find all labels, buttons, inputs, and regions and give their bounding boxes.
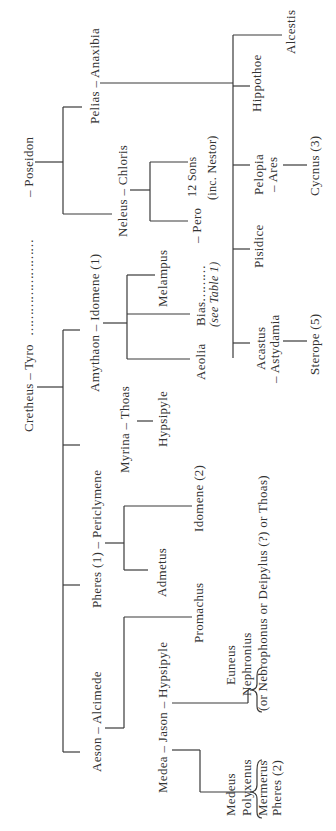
node-astydamia: – Astydamia [268,314,281,383]
node-mermerus: Mermerus [256,760,269,816]
dotted-link-tyro-poseidon: …………………… [22,240,35,336]
dotted-link-bias-pero: ……… [194,266,207,302]
node-euneus: Euneus [224,645,237,685]
node-idomene-2: Idomene (2) [192,465,205,532]
node-acastus: Acastus [254,327,267,370]
node-pisidice: Pisidice [252,224,265,268]
node-medea-jason-hypsipyle: Medea – Jason – Hypsipyle [156,642,169,793]
node-inc-nestor: (inc. Nestor) [206,135,219,200]
node-promachus: Promachus [192,583,205,643]
node-medeus: Medeus [224,773,237,816]
node-pero: – Pero [190,208,203,243]
node-alcestis: Alcestis [284,10,297,54]
node-melampus: Melampus [156,250,169,307]
node-polyxenus: Polyxenus [240,759,253,816]
node-ares: – Ares [266,157,279,192]
node-cretheus-tyro: Cretheus – Tyro [22,344,35,432]
node-sterope-5: Sterope (5) [308,314,321,375]
node-aeolia: Aeolia [194,344,207,380]
node-twelve-sons: 12 Sons [186,157,199,197]
node-nephronius-alternates: (or Nebrophonus or Deipylus (?) or Thoas… [256,475,269,711]
node-pelopia: Pelopia [252,154,265,195]
node-amythaon-idomene: Amythaon – Idomene (1) [88,254,101,392]
node-neleus-chloris: Neleus – Chloris [116,145,129,237]
node-pheres-2: Pheres (2) [270,760,283,816]
node-hypsipyle-daughter: Hypsipyle [156,391,169,447]
node-pheres-periclymene: Pheres (1) – Periclymene [90,470,103,608]
node-nephronius: Nephronius [240,632,253,696]
node-poseidon: – Poseidon [22,137,35,197]
node-pelias-anaxibia: Pelias – Anaxibia [88,28,101,124]
node-see-table: (see Table 1) [208,262,221,327]
node-aeson-alcimede: Aeson – Alcimede [90,671,103,772]
node-myrina-thoas: Myrina – Thoas [118,386,131,473]
node-admetus: Admetus [155,548,168,597]
node-cycnus-3: Cycnus (3) [308,136,321,196]
node-hippothoe: Hippothoe [250,54,263,112]
node-bias: Bias [194,302,207,326]
